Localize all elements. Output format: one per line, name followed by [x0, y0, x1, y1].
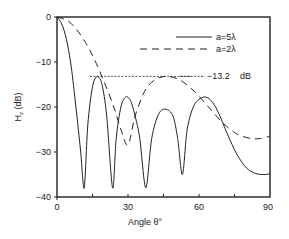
legend: a=5λ a=2λ: [140, 32, 236, 54]
svg-text:Hz (dB): Hz (dB): [13, 92, 24, 121]
y-tick-label: −20: [36, 102, 51, 112]
sidelobe-annotation: −13.2 dB: [180, 71, 251, 81]
y-axis: 0 −10 −20 −30 −40: [36, 12, 57, 202]
plot-frame: [57, 17, 270, 197]
y-tick-label: −40: [36, 192, 51, 202]
annotation-value: −13.2: [207, 71, 230, 81]
legend-label-a5: a=5λ: [216, 32, 236, 42]
legend-label-a2: a=2λ: [216, 44, 236, 54]
y-tick-label: 0: [46, 12, 51, 22]
y-axis-title: Hz (dB): [13, 92, 24, 121]
chart-canvas: 0 −10 −20 −30 −40 Hz (dB) 0 30 60 90 Ang…: [0, 0, 289, 239]
x-tick-label: 60: [194, 202, 204, 212]
y-tick-label: −30: [36, 147, 51, 157]
series-layer: [57, 17, 270, 188]
x-tick-label: 90: [263, 202, 273, 212]
series-dashed-line: [57, 17, 270, 146]
x-tick-label: 0: [54, 202, 59, 212]
annotation-unit: dB: [240, 71, 251, 81]
y-tick-label: −10: [36, 57, 51, 67]
x-axis-title: Angle θ°: [128, 217, 163, 227]
series-solid-line: [57, 17, 270, 188]
x-tick-label: 30: [123, 202, 133, 212]
